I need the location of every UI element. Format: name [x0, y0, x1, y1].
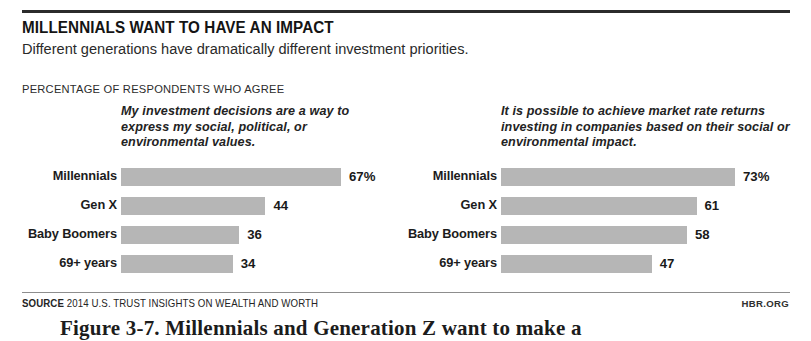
- bar-value-label: 58: [695, 226, 710, 244]
- bar-row: 69+ years 47: [380, 253, 811, 282]
- bar-category-label: Millennials: [5, 168, 117, 183]
- page-title: MILLENNIALS WANT TO HAVE AN IMPACT: [22, 19, 334, 37]
- bar-value-label: 67%: [349, 168, 375, 186]
- bar-value-label: 34: [241, 255, 256, 273]
- bar-row: Baby Boomers 36: [0, 224, 400, 253]
- source-text: 2014 U.S. TRUST INSIGHTS ON WEALTH AND W…: [67, 298, 318, 309]
- bar-category-label: Millennials: [385, 168, 497, 183]
- bar-value-label: 47: [660, 255, 675, 273]
- footer-divider: [22, 292, 790, 293]
- hbr-brand-label: HBR.ORG: [742, 298, 789, 309]
- figure-caption: Figure 3-7. Millennials and Generation Z…: [60, 316, 582, 341]
- bar-value-label: 36: [247, 226, 262, 244]
- bar-fill: [121, 255, 233, 273]
- bar-category-label: 69+ years: [385, 255, 497, 270]
- bar-fill: [501, 197, 697, 215]
- bar-row: Millennials 67%: [0, 166, 400, 195]
- bar-fill: [501, 226, 687, 244]
- top-divider: [22, 10, 790, 13]
- source-line: SOURCE 2014 U.S. TRUST INSIGHTS ON WEALT…: [22, 298, 318, 309]
- bar-category-label: Gen X: [5, 197, 117, 212]
- chart-left-question: My investment decisions are a way to exp…: [121, 104, 381, 151]
- bar-fill: [501, 255, 652, 273]
- bar-value-label: 44: [273, 197, 288, 215]
- bar-fill: [121, 168, 341, 186]
- chart-right-question: It is possible to achieve market rate re…: [501, 104, 791, 151]
- bar-track: 47: [501, 255, 811, 273]
- bar-value-label: 61: [705, 197, 720, 215]
- bar-category-label: Baby Boomers: [385, 226, 497, 241]
- bar-row: Gen X 61: [380, 195, 811, 224]
- chart-right-rows: Millennials 73% Gen X 61 Baby Boomers 58: [380, 166, 811, 282]
- bar-track: 36: [121, 226, 400, 244]
- bar-track: 67%: [121, 168, 400, 186]
- bar-track: 34: [121, 255, 400, 273]
- bar-track: 58: [501, 226, 811, 244]
- bar-track: 61: [501, 197, 811, 215]
- bar-row: 69+ years 34: [0, 253, 400, 282]
- bar-fill: [501, 168, 735, 186]
- source-label: SOURCE: [22, 298, 64, 309]
- chart-left-rows: Millennials 67% Gen X 44 Baby Boomers 36: [0, 166, 400, 282]
- chart-kicker-label: PERCENTAGE OF RESPONDENTS WHO AGREE: [22, 82, 284, 95]
- page-subtitle: Different generations have dramatically …: [22, 40, 469, 58]
- bar-value-label: 73%: [743, 168, 769, 186]
- bar-row: Baby Boomers 58: [380, 224, 811, 253]
- bar-track: 73%: [501, 168, 811, 186]
- bar-category-label: Gen X: [385, 197, 497, 212]
- bar-fill: [121, 226, 239, 244]
- bar-fill: [121, 197, 265, 215]
- bar-row: Gen X 44: [0, 195, 400, 224]
- bar-category-label: 69+ years: [5, 255, 117, 270]
- bar-category-label: Baby Boomers: [5, 226, 117, 241]
- bar-row: Millennials 73%: [380, 166, 811, 195]
- bar-track: 44: [121, 197, 400, 215]
